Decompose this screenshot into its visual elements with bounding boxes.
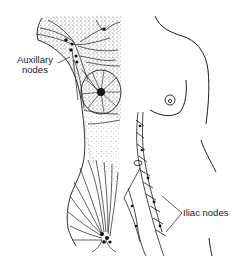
iliac-leader-line-upper (162, 196, 182, 213)
stippled-left-torso (37, 15, 121, 190)
axillary-nodes-label: Auxillary nodes (17, 55, 53, 75)
right-torso-outline (150, 16, 216, 256)
lymphatic-diagram (0, 0, 238, 263)
axillary-label-line2: nodes (17, 65, 53, 75)
right-nipple (165, 95, 175, 105)
areola-left (97, 88, 105, 96)
iliac-chain (124, 112, 166, 256)
iliac-nodes-label: Iliac nodes (183, 208, 228, 218)
iliac-leader-line-lower (166, 213, 182, 232)
